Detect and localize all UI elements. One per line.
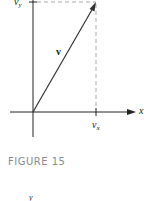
vector-diagram bbox=[0, 0, 163, 201]
vector-arrowhead bbox=[90, 2, 97, 12]
vy-label: vy bbox=[14, 0, 22, 9]
vector-v-label: v bbox=[56, 46, 61, 57]
x-axis-arrowhead bbox=[127, 109, 136, 115]
cropped-label-fragment: y bbox=[29, 193, 33, 201]
vx-label: vx bbox=[92, 120, 100, 132]
x-axis-label: x bbox=[139, 106, 143, 116]
figure-caption: FIGURE 15 bbox=[8, 156, 65, 167]
vector-v bbox=[33, 8, 93, 112]
